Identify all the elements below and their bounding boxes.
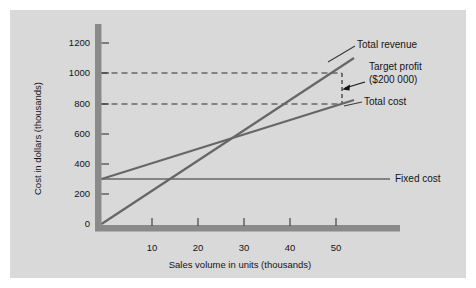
x-tick-label-10: 10	[137, 242, 167, 253]
y-tick-label-600: 600	[52, 128, 90, 139]
x-axis-bar	[95, 225, 400, 232]
y-tick-label-1000: 1000	[52, 67, 90, 78]
x-tick-label-40: 40	[275, 242, 305, 253]
y-tick-label-400: 400	[52, 158, 90, 169]
y-axis-bar	[95, 24, 102, 231]
y-tick-label-800: 800	[52, 98, 90, 109]
target-profit-arrow	[342, 82, 365, 91]
series-label-fixed-cost: Fixed cost	[395, 173, 441, 184]
chart-figure: Cost in dollars (thousands) 1200 1000 80…	[10, 10, 466, 278]
x-tick-label-50: 50	[321, 242, 351, 253]
x-tick-label-30: 30	[229, 242, 259, 253]
y-tick-label-0: 0	[52, 218, 90, 229]
y-tick-label-200: 200	[52, 188, 90, 199]
x-tick-label-20: 20	[183, 242, 213, 253]
y-tick-label-1200: 1200	[52, 37, 90, 48]
x-axis-title: Sales volume in units (thousands)	[110, 259, 370, 270]
series-total-cost	[102, 100, 355, 179]
y-tick-marks	[102, 43, 110, 194]
series-label-total-revenue: Total revenue	[357, 39, 417, 50]
series-total-revenue	[102, 58, 355, 224]
x-tick-marks	[152, 218, 336, 226]
series-label-target-profit-line1: Target profit	[369, 61, 422, 72]
chart-plot-area	[10, 10, 466, 278]
y-axis-title: Cost in dollars (thousands)	[32, 82, 43, 195]
series-label-target-profit-line2: ($200 000)	[369, 74, 417, 85]
series-label-total-cost: Total cost	[364, 96, 406, 107]
